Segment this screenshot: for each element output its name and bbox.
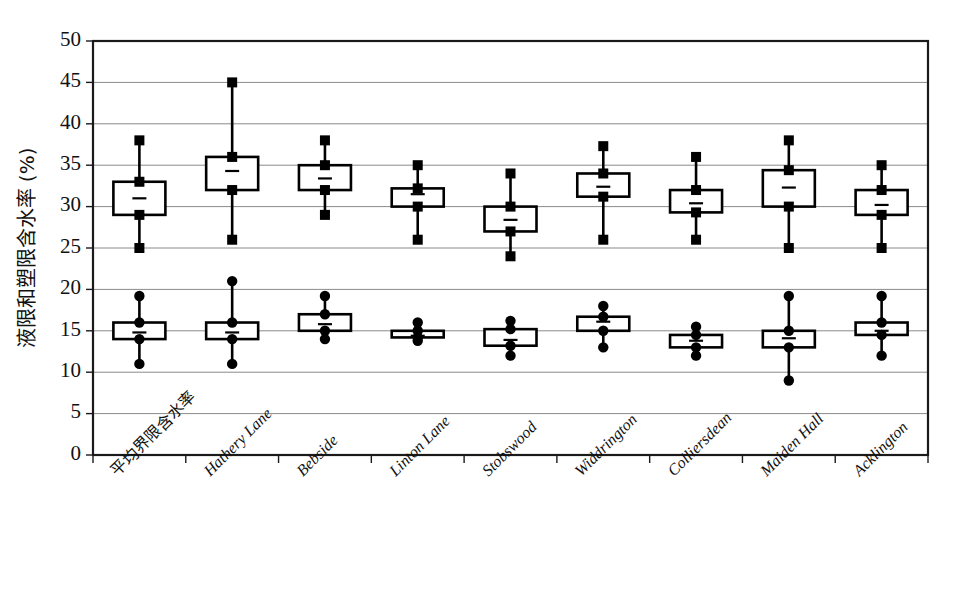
q1-marker <box>227 185 237 195</box>
q1-marker <box>877 210 887 220</box>
y-axis-title: 液限和塑限含水率 (%) <box>15 148 39 349</box>
y-tick-label: 10 <box>60 358 81 382</box>
min-marker <box>134 359 144 369</box>
max-marker <box>598 301 608 311</box>
box-plot-item <box>206 77 258 244</box>
y-axis-title-text: 液限和塑限含水率 (%) <box>15 148 39 349</box>
chart-canvas: 05101520253035404550 平均界限含水率Hathery Lane… <box>0 0 960 599</box>
box-plot-item <box>485 316 537 361</box>
max-marker <box>227 276 237 286</box>
min-marker <box>598 235 608 245</box>
min-marker <box>134 243 144 253</box>
box-plot-item <box>113 135 165 253</box>
min-marker <box>506 251 516 261</box>
y-tick-label: 50 <box>60 27 81 51</box>
min-marker <box>784 243 794 253</box>
box-plot-item <box>577 141 629 245</box>
x-axis-labels: 平均界限含水率Hathery LaneBebsideLinton LaneSto… <box>107 387 912 480</box>
x-axis-label: Stobswood <box>479 417 541 479</box>
y-tick-label: 40 <box>60 110 81 134</box>
box-plot-item <box>670 152 722 245</box>
min-marker <box>876 350 886 360</box>
min-marker <box>227 235 237 245</box>
q1-marker <box>506 226 516 236</box>
max-marker <box>320 291 330 301</box>
x-axis-label: Colliersdean <box>664 409 734 479</box>
q1-marker <box>227 334 237 344</box>
y-tick-label: 0 <box>71 441 82 465</box>
q1-marker <box>134 210 144 220</box>
x-axis-label: Acklington <box>849 418 911 480</box>
max-marker <box>784 291 794 301</box>
q1-marker <box>784 202 794 212</box>
q3-marker <box>134 177 144 187</box>
y-tick-label: 20 <box>60 275 81 299</box>
q3-marker <box>506 202 516 212</box>
max-marker <box>506 168 516 178</box>
q3-marker <box>877 185 887 195</box>
max-marker <box>598 141 608 151</box>
q3-marker <box>320 309 330 319</box>
max-marker <box>134 135 144 145</box>
max-marker <box>877 160 887 170</box>
q3-marker <box>598 168 608 178</box>
max-marker <box>227 77 237 87</box>
y-tick-label: 35 <box>60 151 81 175</box>
y-tick-label: 45 <box>60 68 81 92</box>
q3-marker <box>691 330 701 340</box>
q3-marker <box>413 183 423 193</box>
max-marker <box>691 152 701 162</box>
q3-marker <box>691 185 701 195</box>
x-axis-label: Hathery Lane <box>200 405 276 481</box>
y-tick-label: 25 <box>60 234 81 258</box>
q1-marker <box>598 326 608 336</box>
q3-marker <box>784 326 794 336</box>
q3-marker <box>227 317 237 327</box>
min-marker <box>227 359 237 369</box>
box-plot-chart: 05101520253035404550 平均界限含水率Hathery Lane… <box>0 0 960 599</box>
q1-marker <box>784 342 794 352</box>
y-tick-label: 5 <box>71 399 82 423</box>
box-plot-item <box>299 135 351 220</box>
min-marker <box>505 350 515 360</box>
y-tick-label: 15 <box>60 317 81 341</box>
q3-marker <box>134 317 144 327</box>
x-axis-label: Maiden Hall <box>756 409 827 480</box>
box-plot-item <box>577 301 629 353</box>
min-marker <box>598 342 608 352</box>
box-plot-item <box>670 321 722 360</box>
min-marker <box>784 375 794 385</box>
q3-marker <box>227 152 237 162</box>
min-marker <box>320 210 330 220</box>
q3-marker <box>320 160 330 170</box>
min-marker <box>413 235 423 245</box>
min-marker <box>691 235 701 245</box>
x-axis-label: 平均界限含水率 <box>107 387 200 480</box>
min-marker <box>877 243 887 253</box>
q3-marker <box>598 312 608 322</box>
max-marker <box>784 135 794 145</box>
q1-marker <box>413 202 423 212</box>
min-marker <box>320 334 330 344</box>
box-plot-item <box>392 160 444 245</box>
min-marker <box>691 350 701 360</box>
box-plot-item <box>856 291 908 361</box>
x-axis-label: Widdrington <box>571 411 640 480</box>
box-plot-item <box>485 168 537 261</box>
max-marker <box>320 135 330 145</box>
q1-marker <box>134 334 144 344</box>
box-plot-item <box>763 291 815 386</box>
box-plot-item <box>299 291 351 344</box>
x-axis-label: Linton Lane <box>385 412 453 480</box>
y-axis-ticks: 05101520253035404550 <box>60 27 93 465</box>
q3-marker <box>876 317 886 327</box>
q1-marker <box>320 185 330 195</box>
box-plot-item <box>856 160 908 253</box>
q1-marker <box>876 330 886 340</box>
box-plot-item <box>763 135 815 253</box>
q3-marker <box>784 165 794 175</box>
max-marker <box>413 160 423 170</box>
y-tick-label: 30 <box>60 192 81 216</box>
max-marker <box>876 291 886 301</box>
box-plot-item <box>392 317 444 346</box>
